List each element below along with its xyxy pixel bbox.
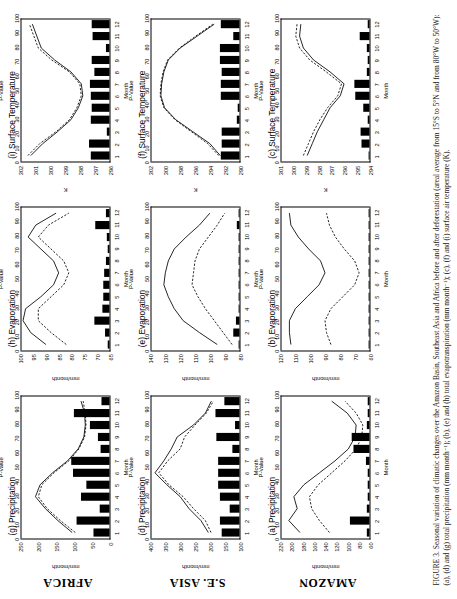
x-axis-tick: 9 — [113, 59, 119, 62]
p-value-bar — [91, 104, 109, 112]
x-axis-tick: 2 — [243, 519, 249, 522]
p-value-tick: 10 — [13, 333, 19, 339]
p-value-bar — [221, 139, 239, 147]
y-axis-tick: 80 — [68, 354, 74, 360]
p-value-bar — [233, 32, 239, 40]
x-axis-tick: 10 — [113, 422, 119, 428]
p-value-tick: 20 — [273, 319, 279, 325]
p-value-tick: 70 — [143, 58, 149, 64]
y-axis-tick: 298 — [77, 165, 83, 174]
figure-caption: FIGURE 3. Seasonal variation of climatic… — [431, 14, 451, 585]
x-axis-tick: 12 — [243, 21, 249, 27]
p-value-tick: 40 — [13, 102, 19, 108]
x-axis-tick: 8 — [243, 259, 249, 262]
p-value-tick: 40 — [273, 478, 279, 484]
p-value-tick: 40 — [143, 478, 149, 484]
panel-grid: AFRICA (g) PrecipitationP-Value010203040… — [2, 6, 392, 593]
p-value-bar — [368, 328, 369, 336]
x-axis-tick: 6 — [113, 95, 119, 98]
y-axis-label: mm/month — [280, 562, 370, 571]
plot-area-c — [280, 18, 370, 162]
p-value-tick: 100 — [143, 202, 149, 211]
p-value-tick: 60 — [143, 449, 149, 455]
x-axis-tick: 7 — [243, 83, 249, 86]
p-value-ticks: 0102030405060708090100 — [136, 395, 149, 539]
p-value-bar — [86, 480, 109, 488]
x-axis-tick: 1 — [113, 531, 119, 534]
x-axis-tick: 11 — [373, 410, 379, 416]
x-axis-ticks: 123456789101112 — [373, 18, 382, 162]
x-axis-tick: 4 — [113, 495, 119, 498]
y-axis-tick: 80 — [356, 542, 362, 548]
x-axis-tick: 10 — [373, 422, 379, 428]
y-axis-tick: 85 — [56, 354, 62, 360]
p-value-bar — [367, 468, 369, 476]
y-axis-tick: 295 — [354, 165, 360, 174]
p-value-tick: 100 — [143, 390, 149, 399]
x-axis-tick: 5 — [373, 295, 379, 298]
p-value-bar — [368, 244, 369, 252]
p-value-bar — [238, 280, 239, 288]
p-value-tick: 0 — [273, 349, 279, 352]
x-axis-tick: 7 — [113, 459, 119, 462]
series-line-dashed — [309, 401, 362, 532]
p-value-ticks: 0102030405060708090100 — [266, 18, 279, 162]
y-axis-tick: 130 — [162, 354, 168, 363]
x-axis-tick: 7 — [373, 459, 379, 462]
x-axis-tick: 12 — [113, 398, 119, 404]
p-value-bar — [367, 397, 369, 405]
x-axis-tick: 7 — [373, 83, 379, 86]
x-axis-tick: 6 — [113, 283, 119, 286]
p-value-tick: 50 — [13, 87, 19, 93]
y-axis-tick: 90 — [222, 354, 228, 360]
y-axis-tick: 90 — [43, 354, 49, 360]
x-axis-tick: 6 — [243, 283, 249, 286]
p-value-bar — [366, 68, 369, 76]
series-line-solid — [160, 24, 219, 155]
p-value-bar — [218, 480, 239, 488]
p-value-tick: 50 — [143, 87, 149, 93]
p-value-bar — [368, 292, 369, 300]
p-value-tick: 70 — [143, 247, 149, 253]
x-axis-tick: 4 — [243, 307, 249, 310]
p-value-tick: 0 — [273, 161, 279, 164]
p-value-bar — [368, 232, 369, 240]
p-value-tick: 10 — [273, 333, 279, 339]
y-axis-tick: 298 — [316, 165, 322, 174]
y-axis-tick: 298 — [177, 165, 183, 174]
p-value-bar — [105, 44, 109, 52]
x-axis-tick: 11 — [373, 221, 379, 227]
p-value-bar — [76, 516, 109, 524]
figure-body: AFRICA (g) PrecipitationP-Value010203040… — [0, 0, 457, 599]
x-axis-tick: 2 — [373, 143, 379, 146]
y-axis-tick: 296 — [341, 165, 347, 174]
p-value-bar — [219, 516, 239, 524]
panel-b: (b) EvaporationP-Value010203040506070809… — [262, 194, 392, 380]
p-value-tick: 30 — [13, 493, 19, 499]
x-axis-tick: 2 — [243, 331, 249, 334]
p-value-tick: 40 — [143, 290, 149, 296]
series-line-dashed — [27, 24, 80, 155]
series-line-dashed — [192, 212, 232, 343]
p-value-tick: 30 — [273, 493, 279, 499]
p-value-bar — [368, 280, 369, 288]
p-value-ticks: 0102030405060708090100 — [6, 206, 19, 350]
plot-svg-e — [150, 206, 239, 349]
p-value-bar — [220, 20, 239, 28]
y-axis-tick: 292 — [222, 165, 228, 174]
p-value-tick: 90 — [13, 218, 19, 224]
x-axis-tick: 8 — [113, 447, 119, 450]
p-value-tick: 80 — [143, 44, 149, 50]
p-value-tick: 50 — [273, 87, 279, 93]
y-axis-tick: 100 — [71, 542, 77, 551]
y-axis-tick: 250 — [17, 542, 23, 551]
series-line-dashed — [160, 24, 219, 155]
y-axis-label: K — [280, 185, 370, 194]
p-value-ticks: 0102030405060708090100 — [6, 18, 19, 162]
x-axis-tick: 7 — [113, 271, 119, 274]
p-value-tick: 20 — [13, 130, 19, 136]
y-axis-tick: 65 — [107, 354, 113, 360]
p-value-ticks: 0102030405060708090100 — [266, 395, 279, 539]
y-axis-tick: 301 — [32, 165, 38, 174]
panel-g: (g) PrecipitationP-Value0102030405060708… — [2, 383, 132, 569]
